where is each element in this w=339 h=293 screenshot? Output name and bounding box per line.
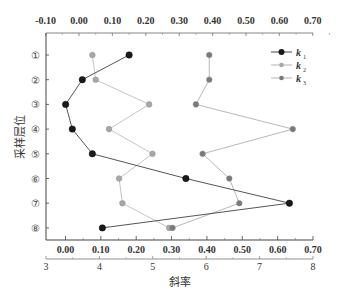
top-tick-label: 0.00	[70, 15, 88, 26]
top-tick-label: 0.30	[170, 15, 188, 26]
legend-label: k	[296, 73, 301, 84]
layer-label: ③	[31, 99, 40, 110]
bottom-x-axis: 0.000.100.200.300.400.500.600.70	[57, 236, 322, 255]
data-point	[286, 200, 292, 206]
data-point	[79, 77, 85, 83]
series-k2	[90, 52, 172, 231]
bottom-tick-label: 0.70	[304, 244, 322, 255]
data-point	[150, 151, 156, 157]
data-point	[120, 200, 126, 206]
bottom-tick-label: 0.60	[269, 244, 287, 255]
data-point	[69, 126, 75, 132]
x-axis-title: 斜率	[169, 275, 191, 289]
bottom-tick-label: 0.30	[163, 244, 181, 255]
top-tick-label: 0.60	[271, 15, 289, 26]
top-tick-label: 0.70	[304, 15, 322, 26]
slope-tick-label: 6	[204, 261, 209, 272]
legend-item-k1: k1	[271, 47, 306, 60]
y-axis-title: 采样层位	[13, 115, 27, 159]
data-point	[89, 151, 95, 157]
slope-tick-label: 7	[257, 261, 262, 272]
data-point	[206, 52, 212, 58]
layer-label: ④	[31, 124, 40, 135]
layer-label: ②	[31, 75, 40, 86]
legend-item-k3: k3	[271, 73, 306, 86]
data-point	[170, 225, 176, 231]
outer-slope-axis: 345678	[44, 256, 316, 272]
bottom-tick-label: 0.40	[198, 244, 216, 255]
slope-tick-label: 3	[44, 261, 49, 272]
layer-label: ⑤	[31, 149, 40, 160]
svg-text:3: 3	[303, 80, 306, 86]
slope-tick-label: 8	[311, 261, 316, 272]
legend-item-k2: k2	[271, 60, 306, 73]
layer-label: ①	[31, 50, 40, 61]
top-tick-label: 0.20	[137, 15, 155, 26]
layer-label: ⑥	[31, 174, 40, 185]
data-point	[106, 126, 112, 132]
data-point	[193, 102, 199, 108]
legend-marker	[279, 63, 284, 68]
legend-marker	[279, 76, 284, 81]
bottom-tick-label: 0.50	[234, 244, 252, 255]
top-tick-label: 0.10	[104, 15, 122, 26]
top-tick-label: 0.50	[237, 15, 255, 26]
data-point	[200, 151, 206, 157]
bottom-tick-label: 0.20	[127, 244, 145, 255]
data-series	[62, 52, 295, 231]
top-tick-label: -0.10	[35, 15, 56, 26]
series-k3	[170, 52, 296, 231]
data-point	[116, 176, 122, 182]
data-point	[290, 126, 296, 132]
legend-label: k	[296, 47, 301, 58]
layer-label: ⑦	[31, 198, 40, 209]
series-line	[92, 55, 169, 228]
data-point	[93, 77, 99, 83]
legend-marker	[279, 49, 285, 55]
data-point	[237, 200, 243, 206]
svg-text:1: 1	[303, 54, 306, 60]
legend: k1k2k3	[271, 47, 306, 86]
legend-label: k	[296, 60, 301, 71]
profile-line-chart: -0.100.000.100.200.300.400.500.600.70 0.…	[0, 0, 339, 293]
data-point	[183, 175, 189, 181]
plot-frame	[46, 33, 313, 240]
top-tick-label: 0.40	[204, 15, 222, 26]
series-line	[173, 55, 293, 228]
data-point	[62, 101, 68, 107]
data-point	[227, 176, 233, 182]
svg-text:2: 2	[303, 67, 306, 73]
data-point	[126, 52, 132, 58]
slope-tick-label: 4	[97, 261, 102, 272]
bottom-tick-label: 0.00	[57, 244, 75, 255]
data-point	[90, 52, 96, 58]
layer-label: ⑧	[31, 223, 40, 234]
slope-tick-label: 5	[150, 261, 155, 272]
data-point	[146, 102, 152, 108]
data-point	[206, 77, 212, 83]
data-point	[99, 225, 105, 231]
bottom-tick-label: 0.10	[92, 244, 110, 255]
